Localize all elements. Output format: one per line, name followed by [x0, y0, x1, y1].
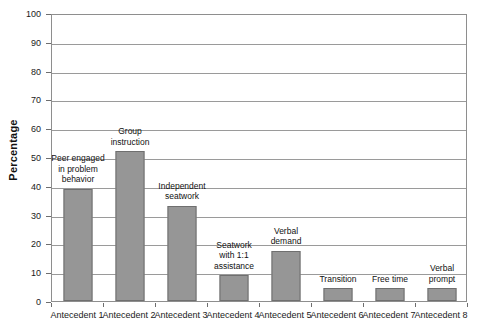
- y-tick-label: 90: [11, 38, 41, 48]
- bar-slot: Free time: [364, 15, 416, 301]
- x-tick-mark: [51, 303, 52, 307]
- bar[interactable]: [64, 189, 93, 301]
- y-tick-mark: [46, 129, 51, 130]
- bar[interactable]: [220, 275, 249, 301]
- y-tick-mark: [46, 187, 51, 188]
- y-tick-label: 10: [11, 268, 41, 278]
- bar-slot: Verbal prompt: [416, 15, 468, 301]
- bar-chart-figure: Percentage Peer engaged in problem behav…: [0, 0, 486, 334]
- y-tick-label: 20: [11, 239, 41, 249]
- x-tick-mark: [363, 303, 364, 307]
- y-tick-label: 70: [11, 95, 41, 105]
- x-tick-mark: [207, 303, 208, 307]
- y-tick-label: 100: [11, 9, 41, 19]
- y-tick-mark: [46, 158, 51, 159]
- y-tick-mark: [46, 43, 51, 44]
- bar[interactable]: [428, 288, 457, 301]
- x-tick-mark: [103, 303, 104, 307]
- bar-annotation: Verbal prompt: [399, 263, 485, 284]
- y-tick-label: 0: [11, 297, 41, 307]
- y-tick-mark: [46, 273, 51, 274]
- x-tick-mark: [415, 303, 416, 307]
- bar-slot: Group instruction: [104, 15, 156, 301]
- bar-slot: Seatwork with 1:1 assistance: [208, 15, 260, 301]
- y-tick-label: 40: [11, 182, 41, 192]
- y-tick-mark: [46, 244, 51, 245]
- bar[interactable]: [376, 288, 405, 301]
- bar[interactable]: [116, 151, 145, 301]
- x-tick-label: Antecedent 8: [401, 310, 481, 320]
- x-tick-mark: [311, 303, 312, 307]
- bar-slot: Peer engaged in problem behavior: [52, 15, 104, 301]
- y-tick-mark: [46, 72, 51, 73]
- bars-layer: Peer engaged in problem behaviorGroup in…: [52, 15, 466, 301]
- plot-area: Peer engaged in problem behaviorGroup in…: [51, 14, 467, 302]
- bar[interactable]: [324, 288, 353, 301]
- x-axis: Antecedent 1Antecedent 2Antecedent 3Ante…: [51, 303, 467, 331]
- y-tick-label: 80: [11, 67, 41, 77]
- x-tick-mark: [467, 303, 468, 307]
- y-tick-label: 50: [11, 153, 41, 163]
- bar-slot: Transition: [312, 15, 364, 301]
- y-tick-label: 60: [11, 124, 41, 134]
- y-tick-label: 30: [11, 211, 41, 221]
- bar-slot: Verbal demand: [260, 15, 312, 301]
- y-tick-mark: [46, 100, 51, 101]
- x-tick-mark: [259, 303, 260, 307]
- x-tick-mark: [155, 303, 156, 307]
- y-tick-mark: [46, 14, 51, 15]
- y-tick-mark: [46, 216, 51, 217]
